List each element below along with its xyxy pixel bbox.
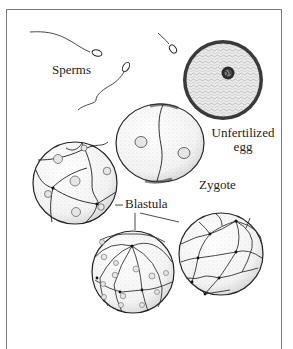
unfertilized-egg	[183, 40, 263, 120]
blastula-sphere-right	[179, 213, 263, 295]
sperm-1	[30, 32, 103, 57]
label-unfertilized-egg-line1: Unfertilized	[211, 126, 275, 140]
blastula-sphere-left	[92, 231, 174, 313]
label-unfertilized-egg-line2: egg	[211, 140, 275, 154]
embryo-eight-cell	[33, 142, 117, 224]
sperm-2	[158, 33, 178, 54]
label-blastula: Blastula	[125, 197, 168, 211]
zygote-two-cell	[116, 104, 204, 182]
label-unfertilized-egg: Unfertilized egg	[211, 126, 275, 153]
label-zygote: Zygote	[199, 178, 236, 192]
label-sperms: Sperms	[52, 63, 91, 77]
